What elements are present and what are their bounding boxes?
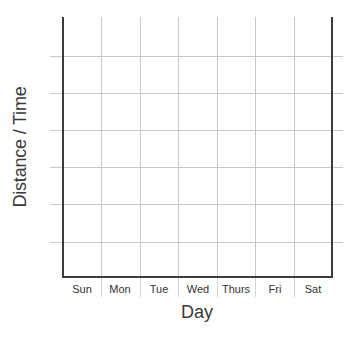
x-tick-label: Sat bbox=[294, 283, 332, 295]
x-tick-label: Sun bbox=[63, 283, 101, 295]
x-tick-label: Wed bbox=[179, 283, 217, 295]
x-tick-label: Thurs bbox=[217, 283, 255, 295]
horizontal-gridlines bbox=[50, 57, 343, 243]
x-tick-label: Mon bbox=[101, 283, 139, 295]
x-axis-label: Day bbox=[181, 302, 213, 323]
x-tick-label: Fri bbox=[256, 283, 294, 295]
y-axis-label: Distance / Time bbox=[10, 86, 31, 207]
x-tick-label: Tue bbox=[140, 283, 178, 295]
